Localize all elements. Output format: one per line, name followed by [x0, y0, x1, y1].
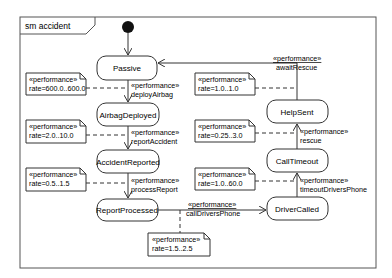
note-rate: rate=2.0..10.0 — [29, 131, 74, 140]
transition-stereotype: «performance» — [131, 176, 179, 185]
transition-report-accident[interactable]: «performance» reportAccident — [128, 126, 179, 149]
transition-stereotype: «performance» — [300, 127, 348, 136]
state-label: Passive — [113, 64, 142, 73]
transition-call-drivers-phone[interactable]: «performance» callDriversPhone — [158, 200, 266, 218]
note-stereotype: «performance» — [198, 122, 246, 131]
note-rate: rate=600.0..600.0 — [29, 84, 86, 93]
state-airbag-deployed[interactable]: AirbagDeployed — [97, 103, 159, 126]
note-stereotype: «performance» — [29, 170, 77, 179]
state-label: AccidentReported — [96, 158, 160, 167]
state-label: AirbagDeployed — [100, 111, 157, 120]
note-stereotype: «performance» — [29, 122, 77, 131]
transition-name: deployAirbag — [131, 90, 173, 99]
transition-name: callDriversPhone — [186, 209, 240, 218]
note-rate: rate=0.25..3.0 — [198, 131, 243, 140]
state-passive[interactable]: Passive — [97, 56, 157, 80]
frame-title: sm accident — [25, 21, 71, 31]
note-stereotype: «performance» — [152, 235, 200, 244]
state-help-sent[interactable]: HelpSent — [267, 100, 328, 123]
transition-rescue[interactable]: «performance» rescue — [297, 124, 348, 149]
transition-stereotype: «performance» — [300, 176, 348, 185]
transition-stereotype: «performance» — [273, 54, 321, 63]
transition-stereotype: «performance» — [131, 81, 179, 90]
note-rate: rate=0.5..1.5 — [29, 179, 70, 188]
transition-deploy-airbag[interactable]: «performance» deployAirbag — [128, 80, 179, 102]
transition-stereotype: «performance» — [188, 200, 236, 209]
note-rate: rate=1.0..1.0 — [198, 84, 239, 93]
initial-node — [122, 21, 134, 33]
transition-name: reportAccident — [131, 137, 177, 146]
state-label: CallTimeout — [276, 157, 319, 166]
transition-name: rescue — [300, 136, 322, 145]
state-driver-called[interactable]: DriverCalled — [267, 197, 328, 220]
note-stereotype: «performance» — [29, 75, 77, 84]
state-label: DriverCalled — [275, 205, 319, 214]
note-rate: rate=1.0..60.0 — [198, 179, 243, 188]
state-label: ReportProcessed — [96, 206, 158, 215]
transition-name: timeoutDriversPhone — [300, 185, 367, 194]
note-await-rescue-rate[interactable]: «performance» rate=1.0..1.0 — [195, 73, 297, 95]
note-stereotype: «performance» — [198, 170, 246, 179]
state-label: HelpSent — [281, 108, 315, 117]
state-call-timeout[interactable]: CallTimeout — [267, 149, 328, 172]
note-rate: rate=1.5..2.5 — [152, 244, 193, 253]
state-machine-diagram: sm accident Passive AirbagDeployed Accid… — [0, 0, 392, 278]
transition-process-report[interactable]: «performance» processReport — [128, 173, 179, 198]
note-stereotype: «performance» — [198, 75, 246, 84]
transition-name: awaitRescue — [276, 63, 317, 72]
state-report-processed[interactable]: ReportProcessed — [96, 199, 158, 221]
transition-stereotype: «performance» — [131, 128, 179, 137]
transition-name: processReport — [131, 185, 178, 194]
state-accident-reported[interactable]: AccidentReported — [96, 150, 160, 173]
transition-timeout-drivers-phone[interactable]: «performance» timeoutDriversPhone — [297, 173, 367, 197]
